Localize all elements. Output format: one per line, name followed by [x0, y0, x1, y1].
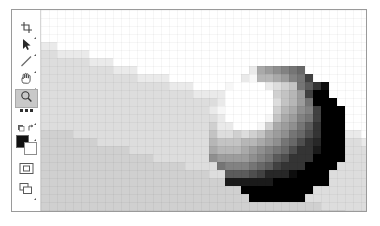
tool-zoom[interactable]: [15, 89, 38, 108]
swap-colors-icon: [15, 123, 38, 134]
mode-quick-mask[interactable]: [15, 162, 38, 181]
arrow-pointer-icon: [15, 38, 38, 51]
screen-mode-icon: [15, 182, 38, 195]
color-swatches: [16, 135, 38, 155]
tools-palette: [12, 10, 41, 211]
image-editor-window: [11, 9, 367, 212]
line-icon: [15, 55, 38, 68]
quick-mask-icon: [15, 162, 38, 175]
ellipsis-icon: [15, 107, 38, 114]
screenshot-root: [0, 0, 380, 226]
tool-submenu-indicator-screen[interactable]: [34, 198, 36, 200]
mode-screen[interactable]: [15, 182, 38, 201]
crop-icon: [15, 21, 38, 34]
background-color-swatch[interactable]: [24, 142, 37, 155]
image-canvas[interactable]: [41, 10, 366, 211]
canvas-viewport[interactable]: [41, 10, 366, 211]
magnifier-icon: [16, 90, 37, 103]
hand-icon: [15, 72, 38, 85]
